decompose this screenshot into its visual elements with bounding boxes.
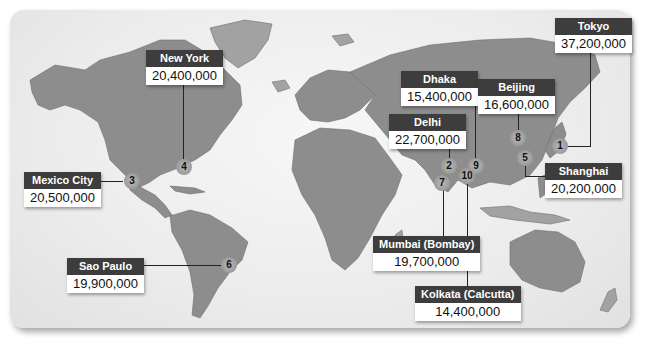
city-population: 16,600,000	[478, 96, 555, 114]
marker-kolkata[interactable]: 10	[459, 168, 475, 184]
label-dhaka: Dhaka 15,400,000	[401, 71, 478, 106]
city-name: Beijing	[478, 79, 555, 96]
city-name: New York	[146, 50, 223, 67]
label-mexico-city: Mexico City 20,500,000	[24, 172, 101, 207]
label-new-york: New York 20,400,000	[146, 50, 223, 85]
city-name: Sao Paulo	[67, 258, 144, 275]
leader-mumbai	[443, 190, 444, 236]
city-name: Mexico City	[24, 172, 101, 189]
label-kolkata: Kolkata (Calcutta) 14,400,000	[415, 286, 521, 321]
city-name: Delhi	[389, 114, 466, 131]
label-sao-paulo: Sao Paulo 19,900,000	[67, 258, 144, 293]
leader-tokyo-h	[567, 146, 591, 147]
marker-mumbai[interactable]: 7	[434, 175, 450, 191]
city-population: 22,700,000	[389, 131, 466, 149]
svalbard	[332, 34, 354, 46]
marker-shanghai[interactable]: 5	[517, 150, 533, 166]
leader-tokyo	[590, 52, 591, 147]
leader-beijing	[518, 111, 519, 131]
city-population: 19,700,000	[373, 253, 480, 271]
marker-mexico-city[interactable]: 3	[124, 173, 140, 189]
city-population: 20,200,000	[545, 180, 622, 198]
new-zealand	[600, 288, 617, 312]
label-delhi: Delhi 22,700,000	[389, 114, 466, 149]
iceland	[272, 80, 290, 92]
australia	[510, 230, 585, 292]
city-population: 20,500,000	[24, 189, 101, 207]
leader-new-york	[183, 80, 184, 162]
city-name: Shanghai	[545, 163, 622, 180]
city-name: Dhaka	[401, 71, 478, 88]
marker-tokyo[interactable]: 1	[552, 138, 568, 154]
indonesia	[480, 206, 570, 224]
leader-mexico-city	[100, 181, 123, 182]
city-name: Mumbai (Bombay)	[373, 236, 480, 253]
city-population: 19,900,000	[67, 275, 144, 293]
label-beijing: Beijing 16,600,000	[478, 79, 555, 114]
label-shanghai: Shanghai 20,200,000	[545, 163, 622, 198]
city-population: 37,200,000	[555, 35, 632, 53]
label-tokyo: Tokyo 37,200,000	[555, 18, 632, 53]
marker-sao-paulo[interactable]: 6	[221, 257, 237, 273]
label-mumbai: Mumbai (Bombay) 19,700,000	[373, 236, 480, 271]
city-population: 20,400,000	[146, 67, 223, 85]
leader-sao-paulo	[140, 265, 225, 266]
city-name: Tokyo	[555, 18, 632, 35]
marker-delhi[interactable]: 2	[441, 158, 457, 174]
leader-shanghai-h	[525, 176, 545, 177]
marker-new-york[interactable]: 4	[176, 159, 192, 175]
marker-beijing[interactable]: 8	[510, 130, 526, 146]
city-population: 14,400,000	[415, 303, 521, 321]
city-name: Kolkata (Calcutta)	[415, 286, 521, 303]
caribbean	[170, 186, 205, 194]
city-population: 15,400,000	[401, 88, 478, 106]
